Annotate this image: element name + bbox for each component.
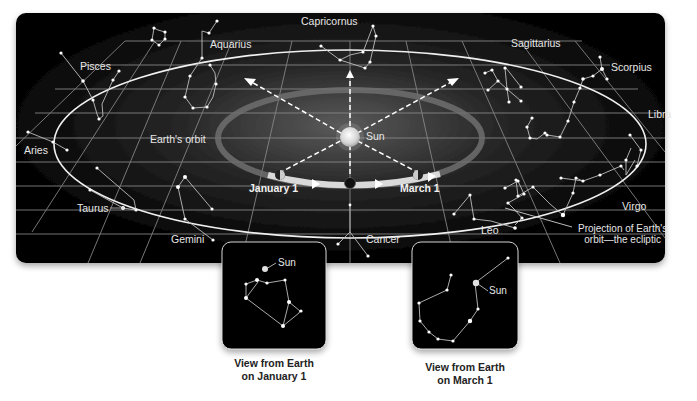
label-scorpius: Scorpius [611,62,652,73]
inset1-sun-label: Sun [278,258,296,268]
inset2-sun [473,280,479,286]
label-aries: Aries [24,145,48,156]
caption-march-1-line1: View from Earth [395,361,535,374]
label-taurus: Taurus [77,203,109,214]
label-january-1: January 1 [249,183,298,194]
caption-march-1: View from Earth on March 1 [395,361,535,387]
label-earths-orbit: Earth's orbit [150,134,206,145]
earth-jan1 [275,170,285,180]
label-ecliptic-line1: Projection of Earth's [578,223,667,234]
label-gemini: Gemini [171,234,204,245]
earth-mar1 [413,170,423,180]
label-aquarius: Aquarius [210,39,251,50]
label-pisces: Pisces [80,61,111,72]
label-ecliptic: Projection of Earth's orbit—the ecliptic [578,223,667,245]
label-cancer: Cancer [366,234,400,245]
caption-march-1-line2: on March 1 [395,374,535,387]
label-libra: Libra [648,109,671,120]
inset-january-1 [222,242,326,349]
caption-january-1-line1: View from Earth [204,357,344,370]
label-ecliptic-line2: orbit—the ecliptic [578,234,667,245]
label-capricornus: Capricornus [301,16,358,27]
caption-january-1-line2: on January 1 [204,370,344,383]
inset1-sun [262,266,268,272]
label-virgo: Virgo [622,201,646,212]
label-leo: Leo [481,225,499,236]
earth-center [345,178,356,189]
ecliptic-diagram: Capricornus Aquarius Pisces Sagittarius … [0,0,697,401]
label-sagittarius: Sagittarius [511,38,561,49]
caption-january-1: View from Earth on January 1 [204,357,344,383]
label-march-1: March 1 [400,183,440,194]
inset2-sun-label: Sun [489,286,507,296]
label-sun: Sun [366,131,385,142]
